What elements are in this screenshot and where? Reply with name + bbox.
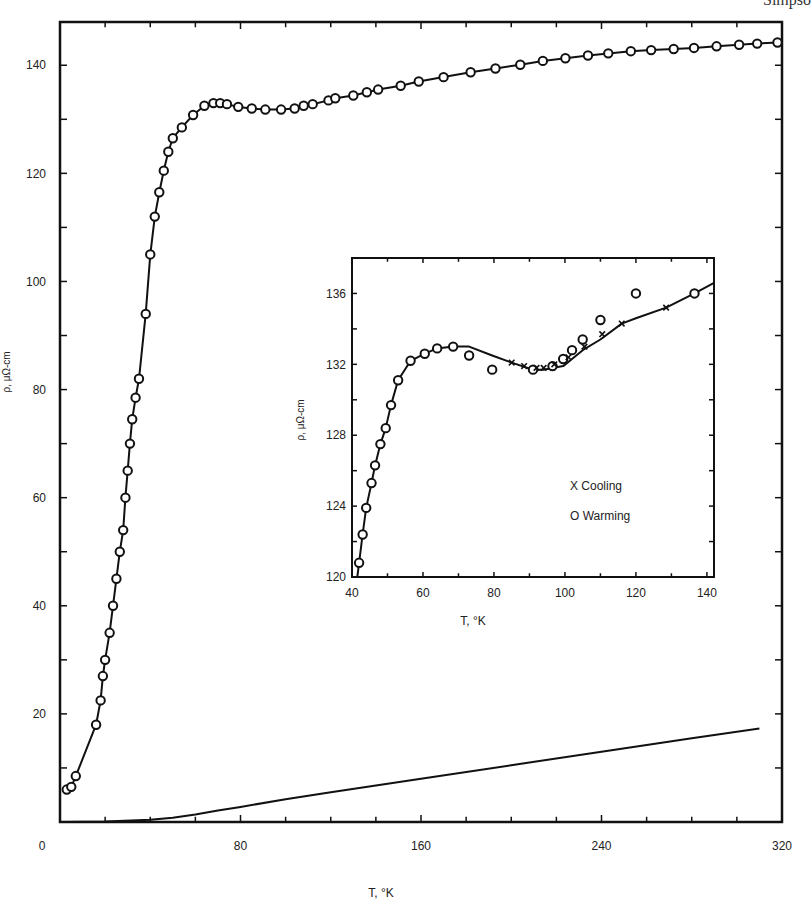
main-data-point xyxy=(516,61,524,69)
x-tick-label: 160 xyxy=(411,839,431,853)
main-data-point xyxy=(121,493,129,501)
main-data-point xyxy=(72,772,80,780)
y-tick-label: 100 xyxy=(26,275,46,289)
warming-data-point xyxy=(433,344,441,352)
main-data-point xyxy=(690,44,698,52)
y-tick-label: 128 xyxy=(326,428,346,442)
warming-data-point xyxy=(488,365,496,373)
warming-data-point xyxy=(394,376,402,384)
warming-data-point xyxy=(406,357,414,365)
main-data-point xyxy=(92,721,100,729)
inset-curve xyxy=(357,283,714,577)
main-plot: 08016024032020406080100120140T, °Kρ, μΩ-… xyxy=(1,22,792,900)
warming-data-point xyxy=(465,351,473,359)
main-data-point xyxy=(415,77,423,85)
warming-data-point xyxy=(387,401,395,409)
main-resistivity-curve xyxy=(67,43,778,790)
main-data-point xyxy=(109,602,117,610)
y-tick-label: 80 xyxy=(33,383,47,397)
main-data-point xyxy=(466,68,474,76)
page-header-fragment: Simpso xyxy=(763,0,811,9)
main-data-point xyxy=(331,94,339,102)
x-tick-label: 120 xyxy=(626,586,646,600)
main-data-point xyxy=(128,415,136,423)
main-data-point xyxy=(155,188,163,196)
main-data-point xyxy=(99,672,107,680)
main-data-point xyxy=(151,212,159,220)
inset-plot: 406080100120140120124128132136T, °Kρ, μΩ… xyxy=(295,258,717,628)
main-data-point xyxy=(349,91,357,99)
y-tick-label: 124 xyxy=(326,499,346,513)
main-data-point xyxy=(178,123,186,131)
main-data-point xyxy=(131,393,139,401)
warming-data-point xyxy=(690,289,698,297)
y-tick-label: 132 xyxy=(326,358,346,372)
lower-reference-curve xyxy=(60,729,759,823)
main-data-point xyxy=(539,57,547,65)
warming-data-point xyxy=(449,342,457,350)
main-data-point xyxy=(290,104,298,112)
main-data-point xyxy=(169,134,177,142)
warming-data-point xyxy=(596,316,604,324)
main-data-point xyxy=(96,696,104,704)
warming-data-point xyxy=(376,440,384,448)
main-data-point xyxy=(112,575,120,583)
warming-data-point xyxy=(578,335,586,343)
x-tick-label: 100 xyxy=(555,586,575,600)
main-data-point xyxy=(753,39,761,47)
y-tick-label: 120 xyxy=(26,167,46,181)
y-axis-label: ρ, μΩ-cm xyxy=(1,351,12,392)
main-data-point xyxy=(773,38,781,46)
main-data-point xyxy=(491,64,499,72)
x-tick-label: 140 xyxy=(697,586,717,600)
main-data-point xyxy=(119,526,127,534)
y-tick-label: 60 xyxy=(33,491,47,505)
main-data-point xyxy=(261,105,269,113)
y-tick-label: 20 xyxy=(33,707,47,721)
y-tick-label: 136 xyxy=(326,287,346,301)
y-tick-label: 40 xyxy=(33,599,47,613)
main-data-point xyxy=(627,47,635,55)
y-tick-label: 120 xyxy=(326,570,346,584)
plot-frame xyxy=(352,258,714,577)
main-data-point xyxy=(309,100,317,108)
main-data-point xyxy=(248,104,256,112)
main-data-point xyxy=(277,105,285,113)
main-data-point xyxy=(160,166,168,174)
main-data-point xyxy=(223,100,231,108)
x-tick-label: 0 xyxy=(39,839,46,853)
warming-data-point xyxy=(358,530,366,538)
main-data-point xyxy=(396,82,404,90)
main-data-point xyxy=(164,148,172,156)
legend-entry-cooling: X Cooling xyxy=(570,479,622,493)
warming-data-point xyxy=(371,461,379,469)
main-data-point xyxy=(234,103,242,111)
warming-data-point xyxy=(355,559,363,567)
main-data-point xyxy=(116,548,124,556)
main-data-point xyxy=(299,102,307,110)
main-data-point xyxy=(584,51,592,59)
main-data-point xyxy=(363,88,371,96)
warming-data-point xyxy=(367,479,375,487)
x-axis-label: T, °K xyxy=(368,886,393,900)
main-data-point xyxy=(374,85,382,93)
main-data-point xyxy=(647,46,655,54)
main-data-point xyxy=(101,656,109,664)
main-data-point xyxy=(146,250,154,258)
main-data-point xyxy=(135,375,143,383)
x-tick-label: 80 xyxy=(234,839,248,853)
x-tick-label: 60 xyxy=(416,586,430,600)
main-data-point xyxy=(200,102,208,110)
plot-frame xyxy=(60,22,782,822)
cooling-data-point xyxy=(599,331,605,337)
x-tick-label: 240 xyxy=(591,839,611,853)
main-data-point xyxy=(735,41,743,49)
warming-data-point xyxy=(382,424,390,432)
main-data-point xyxy=(189,111,197,119)
x-axis-label: T, °K xyxy=(460,614,485,628)
x-tick-label: 80 xyxy=(487,586,501,600)
main-data-point xyxy=(604,49,612,57)
x-tick-label: 40 xyxy=(345,586,359,600)
